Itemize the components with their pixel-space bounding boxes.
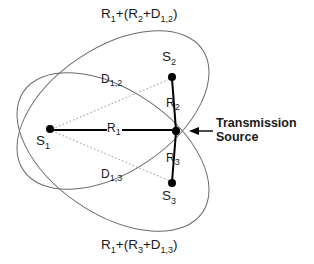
node-transmission-source: [172, 127, 180, 135]
s2-text: S: [162, 49, 171, 64]
bottom-eq-plus1: +: [116, 237, 124, 252]
top-eq-paren-close: ): [173, 6, 178, 21]
top-eq-d12-sub: 1,2: [161, 14, 174, 24]
bottom-eq-paren-close: ): [173, 237, 178, 252]
r3-sub: 3: [175, 157, 180, 167]
s1-sub: 1: [45, 141, 50, 151]
label-s1: S1: [36, 134, 50, 149]
top-eq-r2: R: [128, 6, 138, 21]
d13-text: D: [101, 167, 110, 181]
top-eq-plus2: +: [143, 6, 151, 21]
label-s3: S3: [162, 189, 176, 204]
d12-sub: 1,2: [110, 78, 123, 88]
r1-sub: 1: [116, 127, 121, 137]
label-d13: D1,3: [101, 168, 122, 181]
label-r1: R1: [107, 122, 121, 135]
r1-text: R: [107, 121, 116, 135]
bottom-eq-r1: R: [101, 237, 111, 252]
top-eq-d12: D: [151, 6, 161, 21]
label-d12: D1,2: [101, 73, 122, 86]
diagram-figure: R1+(R2+D1,2) R1+(R3+D1,3) Transmission S…: [0, 0, 314, 264]
s3-sub: 3: [171, 196, 176, 206]
bottom-eq-d13: D: [151, 237, 161, 252]
node-s2: [168, 73, 176, 81]
bottom-eq-d13-sub: 1,3: [161, 245, 174, 255]
top-eq-plus1: +: [116, 6, 124, 21]
d13-sub: 1,3: [110, 173, 123, 183]
s1-text: S: [36, 133, 45, 148]
s2-sub: 2: [171, 57, 176, 67]
transmission-source-line1: Transmission: [216, 116, 297, 130]
label-top-range-sum: R1+(R2+D1,2): [101, 7, 178, 22]
bottom-eq-r3: R: [128, 237, 138, 252]
r2-text: R: [166, 96, 175, 110]
pointer-arrow-icon: [189, 127, 213, 135]
ellipse-upper: [0, 0, 237, 222]
transmission-source-line2: Source: [216, 130, 297, 144]
node-s3: [168, 179, 176, 187]
d12-text: D: [101, 72, 110, 86]
r2-sub: 2: [175, 102, 180, 112]
node-s1: [46, 125, 54, 133]
top-eq-r1: R: [101, 6, 111, 21]
r3-text: R: [166, 151, 175, 165]
label-s2: S2: [162, 50, 176, 65]
label-r3: R3: [166, 152, 180, 165]
s3-text: S: [162, 188, 171, 203]
label-transmission-source: Transmission Source: [216, 116, 297, 145]
bottom-eq-plus2: +: [143, 237, 151, 252]
label-r2: R2: [166, 97, 180, 110]
label-bottom-range-sum: R1+(R3+D1,3): [101, 238, 178, 253]
